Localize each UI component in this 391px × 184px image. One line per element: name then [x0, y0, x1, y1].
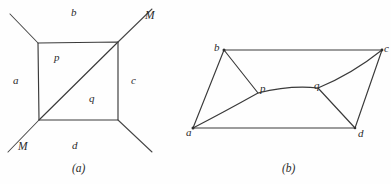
- label-region-q: q: [89, 93, 95, 104]
- label-vertex-p: p: [260, 83, 266, 94]
- vertex-dot-c: [381, 49, 384, 52]
- panel-b-drawing: [192, 49, 384, 130]
- label-region-b: b: [71, 7, 77, 18]
- label-region-d: d: [72, 140, 78, 151]
- vertex-dot-d: [354, 127, 357, 130]
- edge-c-d: [355, 50, 382, 128]
- label-vertex-a: a: [186, 127, 192, 138]
- edge-b-p: [224, 50, 258, 93]
- label-vertex-q: q: [314, 80, 320, 91]
- label-marked-point-m-top: M: [145, 10, 155, 22]
- label-marked-point-m-bottom: M: [18, 141, 28, 153]
- label-region-p: p: [54, 52, 60, 63]
- figure-root: b a c d p q M M (a) a b c d p q (b): [0, 0, 391, 184]
- edge-a-b: [193, 50, 224, 128]
- caption-panel-a: (a): [72, 163, 85, 175]
- caption-panel-b: (b): [282, 163, 295, 175]
- square-diagonal: [39, 42, 118, 120]
- ray-top-left: [10, 14, 38, 43]
- label-region-a: a: [13, 75, 19, 86]
- label-vertex-d: d: [358, 128, 364, 139]
- ray-bottom-right: [118, 120, 152, 152]
- figure-drawing: [0, 0, 391, 184]
- label-vertex-c: c: [384, 43, 389, 54]
- vertex-dot-b: [223, 49, 226, 52]
- interior-curve-a-p-q-c: [193, 50, 382, 128]
- edge-q-d: [318, 88, 355, 128]
- label-region-c: c: [131, 75, 136, 86]
- label-vertex-b: b: [214, 42, 220, 53]
